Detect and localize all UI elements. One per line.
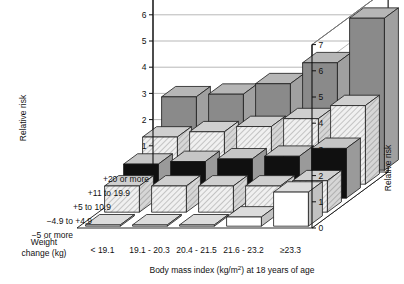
y-axis-title-line1: Weight [31,237,58,247]
z-ticklabel-right-0: 0 [319,223,324,233]
z-ticklabel-left-1: 1 [142,141,147,151]
relative-risk-3d-bar-chart: 0123456701234567Relative riskRelative ri… [0,0,404,284]
z-ticklabel-right-2: 2 [319,171,324,181]
z-ticklabel-right-3: 3 [319,145,324,155]
x-ticklabel-4: ≥23.3 [280,245,301,255]
x-axis-title: Body mass index (kg/m2) at 18 years of a… [149,264,314,276]
y-ticklabel-3: −4.9 to +4.9 [47,216,93,226]
z-ticklabel-right-5: 5 [319,92,324,102]
bar-front-face [133,225,168,226]
z-axis-title-right: Relative risk [383,144,393,191]
bar-front-face [152,186,187,212]
z-ticklabel-right-4: 4 [319,118,324,128]
z-axis-title-left: Relative risk [18,94,28,141]
x-ticklabel-2: 20.4 - 21.5 [176,245,217,255]
bar-4-4 [274,182,323,226]
bar-3-1 [152,176,201,213]
y-ticklabel-2: +5 to 10.9 [73,202,111,212]
z-ticklabel-right-1: 1 [319,197,324,207]
y-ticklabel-1: +11 to 19.9 [88,188,130,198]
x-ticklabel-3: 21.6 - 23.2 [223,245,264,255]
bar-front-face [199,186,234,212]
chart-root: 0123456701234567Relative riskRelative ri… [0,0,404,284]
bar-front-face [227,217,262,226]
bar-side-face [365,95,379,184]
bar-front-face [180,225,215,226]
z-ticklabel-left-2: 2 [142,115,147,125]
z-ticklabel-left-3: 3 [142,89,147,99]
z-ticklabel-left-6: 6 [142,10,147,20]
x-ticklabel-0: < 19.1 [91,245,115,255]
y-axis-title-line2: change (kg) [22,248,67,258]
z-ticklabel-left-5: 5 [142,36,147,46]
y-ticklabel-0: +20 or more [103,174,149,184]
z-ticklabel-right-6: 6 [319,66,324,76]
x-ticklabel-1: 19.1 - 20.3 [129,245,170,255]
bar-side-face [346,138,360,198]
z-ticklabel-right-7: 7 [319,40,324,50]
bar-front-face [274,192,309,226]
z-ticklabel-left-4: 4 [142,62,147,72]
